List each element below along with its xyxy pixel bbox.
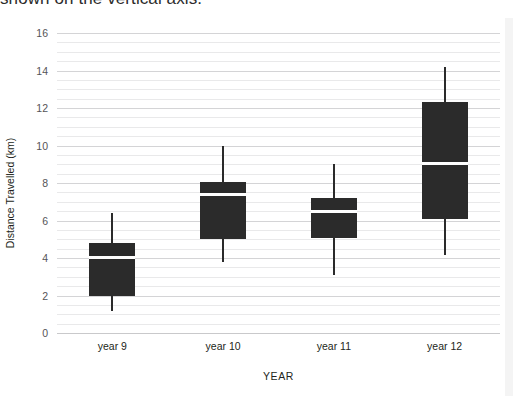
box-plot-item [89,33,135,333]
box-plot-chart: Distance Travelled (km) YEAR 02468101214… [0,18,513,396]
upper-whisker [444,67,446,103]
y-tick-label: 6 [42,215,48,227]
x-axis-title: YEAR [57,370,500,382]
median-line [200,193,246,196]
y-tick-label: 14 [36,65,48,77]
box-plot-item [311,33,357,333]
y-tick-label: 4 [42,252,48,264]
x-tick-label: year 10 [206,340,241,352]
box-iqr [422,102,468,218]
lower-whisker [111,296,113,311]
x-tick-label: year 11 [317,340,351,352]
plot-region: 0246810121416 [57,33,500,333]
median-line [89,256,135,259]
box-plot-item [422,33,468,333]
y-tick-label: 0 [42,327,48,339]
box-iqr [311,198,357,238]
lower-whisker [333,238,335,275]
box-plot-item [200,33,246,333]
x-tick-label: year 9 [98,340,127,352]
x-tick-label: year 12 [427,340,462,352]
upper-whisker [111,213,113,243]
y-axis-title: Distance Travelled (km) [4,138,16,248]
box-iqr [200,182,246,239]
y-tick-label: 2 [42,290,48,302]
page-edge-artifact [505,18,513,396]
lower-whisker [222,239,224,262]
box-iqr [89,243,135,296]
cut-off-caption: shown on the vertical axis. [0,0,513,10]
y-tick-label: 12 [36,102,48,114]
y-tick-label: 10 [36,140,48,152]
upper-whisker [333,164,335,198]
upper-whisker [222,146,224,183]
y-tick-label: 16 [36,27,48,39]
median-line [311,210,357,213]
median-line [422,162,468,165]
lower-whisker [444,219,446,256]
gridline-major [57,333,500,334]
y-tick-label: 8 [42,177,48,189]
